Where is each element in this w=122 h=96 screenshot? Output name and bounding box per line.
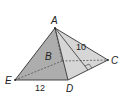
label-E: E (5, 75, 12, 86)
vertex-E-dot (14, 79, 16, 81)
pyramid-diagram: A B C D E 12 10 (0, 0, 122, 96)
label-slant-height: 10 (76, 42, 86, 52)
label-A: A (50, 15, 58, 26)
label-base-edge: 12 (35, 83, 45, 93)
label-D: D (66, 83, 73, 94)
vertex-C-dot (107, 59, 109, 61)
label-B: B (45, 51, 52, 62)
vertex-A-dot (54, 27, 56, 29)
label-C: C (111, 55, 119, 66)
